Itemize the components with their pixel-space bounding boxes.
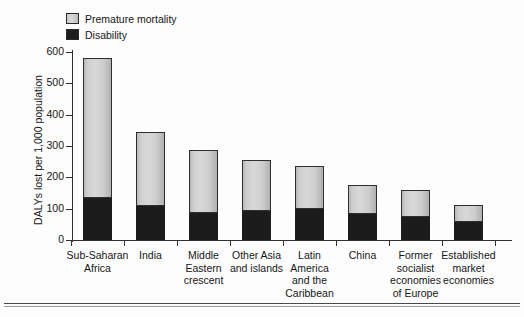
x-category-label-line: of Europe: [378, 287, 454, 300]
y-tick-label: 300: [38, 139, 64, 151]
bar-group: [295, 52, 324, 240]
x-tick-mark: [177, 241, 178, 246]
x-tick-mark: [389, 241, 390, 246]
bar-group: [242, 52, 271, 240]
x-tick-mark: [124, 241, 125, 246]
x-category-label-line: America: [272, 262, 348, 275]
bar-segment-disability: [295, 209, 324, 240]
legend-label-premature-mortality: Premature mortality: [85, 13, 177, 25]
bar-segment-premature-mortality: [295, 166, 324, 208]
x-tick-mark: [283, 241, 284, 246]
bar-group: [348, 52, 377, 240]
bar-segment-premature-mortality: [136, 132, 165, 206]
y-tick-label: 400: [38, 108, 64, 120]
disability-swatch: [66, 29, 79, 40]
bar-segment-premature-mortality: [189, 150, 218, 213]
legend-label-disability: Disability: [85, 29, 127, 41]
bar-segment-premature-mortality: [83, 58, 112, 197]
bar-segment-disability: [136, 206, 165, 240]
y-tick-label: 0: [38, 233, 64, 245]
bar-group: [189, 52, 218, 240]
x-category-label: Establishedmarketeconomies: [431, 249, 507, 287]
x-category-label-line: crescent: [166, 274, 242, 287]
x-tick-mark: [336, 241, 337, 246]
footer-divider: [4, 303, 520, 304]
legend-item-disability: Disability: [66, 28, 177, 41]
y-tick-label: 600: [38, 45, 64, 57]
x-tick-mark: [71, 241, 72, 246]
x-category-label-line: and the: [272, 274, 348, 287]
x-category-label-line: Established: [431, 249, 507, 262]
bar-segment-premature-mortality: [348, 185, 377, 214]
x-tick-mark: [230, 241, 231, 246]
y-tick-label: 500: [38, 76, 64, 88]
x-axis-line: [72, 240, 512, 241]
bar-group: [401, 52, 430, 240]
bar-segment-premature-mortality: [401, 190, 430, 218]
premature-mortality-swatch: [66, 13, 79, 24]
chart-figure: Premature mortality Disability DALYs los…: [0, 0, 524, 317]
bar-segment-disability: [189, 213, 218, 240]
y-tick-label: 100: [38, 202, 64, 214]
chart-legend: Premature mortality Disability: [66, 12, 177, 41]
y-tick-label: 200: [38, 170, 64, 182]
bar-group: [454, 52, 483, 240]
x-category-label-line: Caribbean: [272, 287, 348, 300]
bar-group: [83, 52, 112, 240]
bar-group: [136, 52, 165, 240]
legend-item-premature-mortality: Premature mortality: [66, 12, 177, 25]
x-tick-mark: [495, 241, 496, 246]
bar-segment-premature-mortality: [454, 205, 483, 222]
footer-divider-shadow: [4, 306, 520, 307]
bar-segment-disability: [83, 198, 112, 240]
bar-segment-premature-mortality: [242, 160, 271, 211]
x-tick-mark: [442, 241, 443, 246]
x-category-label-line: economies: [431, 274, 507, 287]
bar-segment-disability: [454, 222, 483, 240]
x-category-label-line: Africa: [60, 262, 136, 275]
bar-segment-disability: [242, 211, 271, 240]
x-category-label-line: market: [431, 262, 507, 275]
plot-area: [72, 52, 512, 240]
bar-segment-disability: [401, 217, 430, 240]
bar-segment-disability: [348, 214, 377, 240]
